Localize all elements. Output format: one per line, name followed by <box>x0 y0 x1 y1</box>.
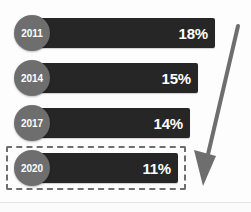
year-bubble: 2011 <box>14 15 50 51</box>
bar-value-label: 14% <box>154 116 183 131</box>
year-label: 2017 <box>14 105 50 141</box>
footer-area <box>0 203 251 212</box>
downward-trend-arrow-icon <box>188 18 248 193</box>
year-bubble: 2014 <box>14 60 50 96</box>
year-bubble: 2017 <box>14 105 50 141</box>
year-bubble: 2020 <box>14 150 50 186</box>
year-label: 2014 <box>14 60 50 96</box>
year-label: 2020 <box>14 150 50 186</box>
bar-chart-figure: 18%201115%201414%201711%2020 <box>0 0 251 212</box>
year-label: 2011 <box>14 15 50 51</box>
bar: 14% <box>32 108 190 138</box>
bar: 15% <box>32 63 198 93</box>
bar-value-label: 15% <box>162 71 191 86</box>
